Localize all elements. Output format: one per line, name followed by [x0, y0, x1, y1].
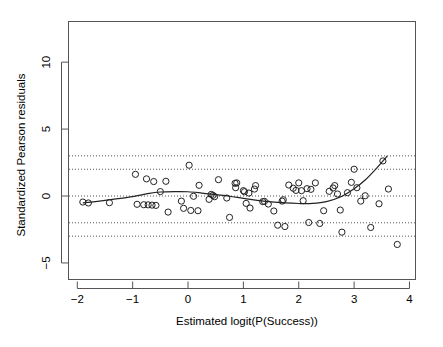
data-point: [376, 201, 382, 207]
data-point: [106, 200, 112, 206]
data-point: [178, 198, 184, 204]
data-point: [337, 207, 343, 213]
plot-canvas: Standardized Pearson residuals Estimated…: [0, 0, 443, 347]
data-point: [195, 208, 201, 214]
data-point: [247, 205, 253, 211]
residual-plot-figure: Standardized Pearson residuals Estimated…: [0, 0, 443, 347]
data-point: [385, 186, 391, 192]
plot-panel-border: [69, 22, 416, 280]
data-point: [163, 178, 169, 184]
x-axis-tick-label: 1: [240, 293, 246, 305]
x-axis-tick-label: −2: [71, 293, 84, 305]
data-point: [226, 214, 232, 220]
data-point: [143, 176, 149, 182]
y-axis-tick-label: −5: [40, 256, 52, 269]
data-point: [358, 198, 364, 204]
data-point: [188, 207, 194, 213]
data-points: [80, 158, 401, 248]
data-point: [317, 220, 323, 226]
data-point: [134, 201, 140, 207]
data-point: [339, 229, 345, 235]
x-axis-tick-label: 3: [351, 293, 357, 305]
x-axis-tick-label: 2: [296, 293, 302, 305]
data-point: [334, 191, 340, 197]
data-point: [321, 208, 327, 214]
data-point: [368, 224, 374, 230]
data-point: [394, 241, 400, 247]
y-axis: −50510: [40, 56, 69, 270]
data-point: [132, 171, 138, 177]
data-point: [271, 208, 277, 214]
x-axis-title: Estimated logit(P(Success)): [176, 315, 318, 327]
data-point: [275, 222, 281, 228]
data-point: [326, 188, 332, 194]
reference-lines: [69, 156, 415, 236]
y-axis-tick-label: 0: [40, 193, 52, 199]
x-axis-tick-label: 0: [185, 293, 191, 305]
x-axis-tick-label: −1: [126, 293, 139, 305]
data-point: [312, 180, 318, 186]
data-point: [286, 182, 292, 188]
y-axis-tick-label: 5: [40, 126, 52, 132]
data-point: [186, 162, 192, 168]
y-axis-title: Standardized Pearson residuals: [15, 73, 27, 236]
data-point: [151, 178, 157, 184]
data-point: [308, 186, 314, 192]
data-point: [180, 205, 186, 211]
data-point: [153, 202, 159, 208]
data-point: [296, 180, 302, 186]
data-point: [300, 198, 306, 204]
y-axis-tick-label: 10: [40, 56, 52, 69]
data-point: [215, 177, 221, 183]
data-point: [282, 223, 288, 229]
x-axis-tick-label: 4: [406, 293, 413, 305]
data-point: [252, 182, 258, 188]
data-point: [196, 182, 202, 188]
data-point: [165, 209, 171, 215]
data-point: [348, 179, 354, 185]
x-axis: −2−101234: [71, 282, 414, 306]
